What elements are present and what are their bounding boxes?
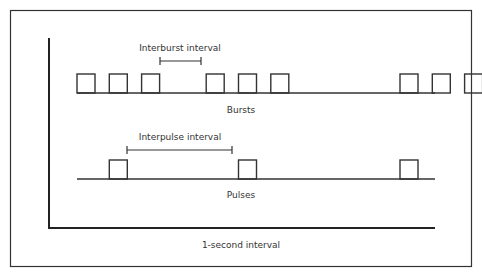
pulses-label: Pulses [227, 190, 256, 200]
burst-pulse [432, 74, 450, 93]
pulse-pulse [109, 160, 127, 179]
interpulse-interval-marker [127, 146, 232, 154]
interpulse-interval-label: Interpulse interval [139, 132, 221, 142]
timing-diagram: Interburst interval Interpulse interval … [0, 0, 482, 274]
time-axis-label: 1-second interval [202, 240, 280, 250]
burst-pulse [465, 74, 482, 93]
pulses-train [77, 160, 435, 179]
interburst-interval-marker [160, 57, 201, 65]
burst-pulse [239, 74, 257, 93]
burst-pulse [109, 74, 127, 93]
burst-pulse [271, 74, 289, 93]
bursts-train [77, 74, 482, 93]
pulse-pulse [400, 160, 418, 179]
burst-pulse [400, 74, 418, 93]
pulse-pulse [239, 160, 257, 179]
burst-pulse [142, 74, 160, 93]
burst-pulse [77, 74, 95, 93]
bursts-label: Bursts [227, 105, 256, 115]
burst-pulse [206, 74, 224, 93]
interburst-interval-label: Interburst interval [139, 43, 221, 53]
